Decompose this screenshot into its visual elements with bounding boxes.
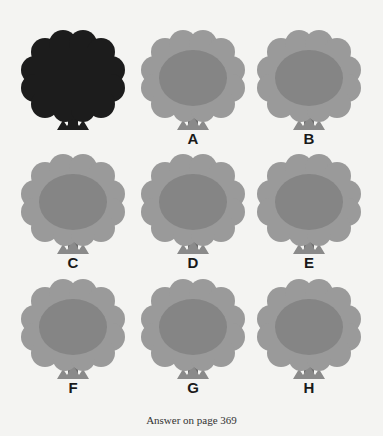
tree-icon bbox=[13, 26, 133, 136]
tree-icon bbox=[133, 275, 253, 385]
tree-icon bbox=[249, 150, 369, 260]
option-tree-g[interactable]: G bbox=[133, 275, 253, 400]
tree-icon bbox=[13, 275, 133, 385]
option-label: C bbox=[13, 254, 133, 271]
option-tree-c[interactable]: C bbox=[13, 150, 133, 275]
answer-note: Answer on page 369 bbox=[0, 414, 383, 426]
option-tree-a[interactable]: A bbox=[133, 26, 253, 151]
option-tree-f[interactable]: F bbox=[13, 275, 133, 400]
option-label: B bbox=[249, 130, 369, 147]
option-label: F bbox=[13, 379, 133, 396]
reference-tree bbox=[13, 26, 133, 151]
option-label: E bbox=[249, 254, 369, 271]
tree-icon bbox=[249, 26, 369, 136]
option-label: D bbox=[133, 254, 253, 271]
option-label: A bbox=[133, 130, 253, 147]
tree-icon bbox=[13, 150, 133, 260]
option-tree-e[interactable]: E bbox=[249, 150, 369, 275]
option-tree-h[interactable]: H bbox=[249, 275, 369, 400]
option-label: H bbox=[249, 379, 369, 396]
tree-icon bbox=[133, 26, 253, 136]
tree-icon bbox=[133, 150, 253, 260]
option-label: G bbox=[133, 379, 253, 396]
option-tree-b[interactable]: B bbox=[249, 26, 369, 151]
option-tree-d[interactable]: D bbox=[133, 150, 253, 275]
tree-icon bbox=[249, 275, 369, 385]
